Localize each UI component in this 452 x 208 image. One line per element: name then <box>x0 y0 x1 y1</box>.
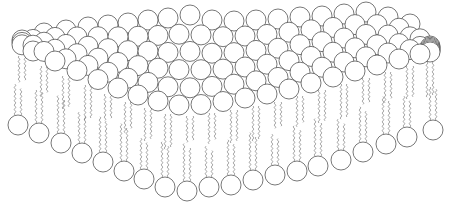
fatty-acid-tail <box>227 140 229 175</box>
fatty-acid-tail <box>90 85 92 118</box>
bottom-head <box>199 177 219 197</box>
fatty-acid-tail <box>280 102 282 126</box>
fatty-acid-tail <box>214 113 216 139</box>
fatty-acid-tail <box>318 90 320 123</box>
fatty-acid-tail <box>192 116 194 140</box>
top-head <box>180 5 200 25</box>
fatty-acid-tail <box>230 110 232 143</box>
bottom-head <box>221 175 241 195</box>
fatty-acid-tail <box>382 97 384 134</box>
fatty-acid-tail <box>35 90 37 123</box>
fatty-acid-tail <box>68 76 70 107</box>
top-head <box>148 91 168 111</box>
fatty-acid-tail <box>130 102 132 128</box>
fatty-acid-tail <box>183 144 185 181</box>
fatty-acid-tail <box>359 107 361 142</box>
top-head <box>180 78 200 98</box>
fatty-acid-tail <box>409 101 411 127</box>
fatty-acid-tail <box>205 146 207 177</box>
bottom-head <box>308 156 328 176</box>
fatty-acid-tail <box>271 134 273 165</box>
bottom-leaflet-heads <box>8 115 443 201</box>
fatty-acid-tail <box>384 72 386 103</box>
bottom-head <box>397 127 417 147</box>
bottom-head <box>177 181 197 201</box>
fatty-acid-tail <box>41 92 43 123</box>
fatty-acid-tail <box>14 84 16 115</box>
fatty-acid-tail <box>365 111 367 142</box>
bottom-head <box>134 169 154 189</box>
top-head <box>180 41 200 61</box>
top-head <box>191 60 211 80</box>
top-head <box>213 92 233 112</box>
fatty-acid-tail <box>84 117 86 143</box>
fatty-acid-tail <box>432 62 434 95</box>
fatty-acid-tail <box>46 66 48 92</box>
bottom-head <box>155 177 175 197</box>
fatty-acid-tail <box>255 137 257 170</box>
fatty-acid-tail <box>293 126 295 161</box>
fatty-acid-tail <box>274 102 276 128</box>
top-head <box>169 95 189 115</box>
top-head <box>323 67 343 87</box>
fatty-acid-tail <box>412 66 414 97</box>
fatty-acid-tail <box>170 114 172 147</box>
fatty-acid-tail <box>120 124 122 161</box>
top-head <box>389 49 409 69</box>
fatty-acid-tail <box>167 146 169 177</box>
top-head <box>45 51 65 71</box>
top-leaflet-heads <box>12 2 440 115</box>
fatty-acid-tail <box>24 56 26 80</box>
fatty-acid-tail <box>362 78 364 104</box>
fatty-acid-tail <box>150 108 152 139</box>
fatty-acid-tail <box>343 124 345 150</box>
fatty-acid-tail <box>18 56 20 82</box>
fatty-acid-tail <box>252 106 254 141</box>
fatty-acid-tail <box>302 96 304 122</box>
fatty-acid-tail <box>390 72 392 98</box>
fatty-acid-tail <box>299 130 301 161</box>
fatty-acid-tail <box>161 142 163 177</box>
bottom-head <box>8 115 28 135</box>
top-head <box>169 60 189 80</box>
bottom-head <box>287 161 307 181</box>
bottom-head <box>265 165 285 185</box>
top-head <box>410 44 430 64</box>
fatty-acid-tail <box>236 110 238 141</box>
fatty-acid-tail <box>40 66 42 97</box>
fatty-acid-tail <box>110 94 112 118</box>
fatty-acid-tail <box>324 90 326 121</box>
top-head <box>367 55 387 75</box>
fatty-acid-tail <box>337 119 339 150</box>
fatty-acid-tail <box>435 89 437 120</box>
top-head <box>257 84 277 104</box>
top-head <box>169 24 189 44</box>
fatty-acid-tail <box>144 108 146 141</box>
bottom-head <box>353 142 373 162</box>
fatty-acid-tail <box>340 84 342 119</box>
fatty-acid-tail <box>249 133 251 170</box>
fatty-acid-tail <box>258 106 260 139</box>
bottom-head <box>423 120 443 140</box>
fatty-acid-tail <box>406 66 408 99</box>
top-head <box>191 95 211 115</box>
fatty-acid-tail <box>84 85 86 120</box>
fatty-acid-tail <box>233 144 235 175</box>
top-head <box>301 73 321 93</box>
fatty-acid-tail <box>99 117 101 152</box>
top-head <box>128 85 148 105</box>
fatty-acid-tail <box>320 123 322 156</box>
fatty-acid-tail <box>189 148 191 181</box>
fatty-acid-tail <box>104 94 106 120</box>
fatty-acid-tail <box>78 112 80 143</box>
fatty-acid-tail <box>146 143 148 169</box>
top-head <box>67 61 87 81</box>
bottom-head <box>243 170 263 190</box>
fatty-acid-tail <box>346 84 348 117</box>
bottom-head <box>93 152 113 172</box>
fatty-acid-tail <box>296 96 298 127</box>
top-head <box>345 61 365 81</box>
bottom-head <box>331 150 351 170</box>
fatty-acid-tail <box>124 102 126 133</box>
fatty-acid-tail <box>164 114 166 149</box>
